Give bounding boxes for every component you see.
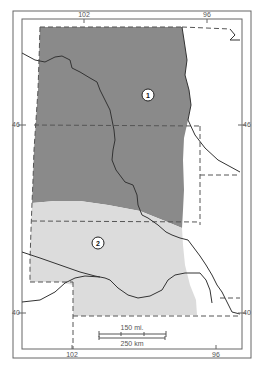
lat-label-right-46: 46 (243, 121, 251, 128)
region-2-marker: 2 (92, 237, 104, 249)
region-2-label: 2 (96, 240, 100, 247)
lon-label-bottom-102: 102 (66, 351, 78, 358)
lat-label-left-40: 40 (12, 309, 20, 316)
lon-label-top-102: 102 (78, 11, 90, 18)
river-eastern (182, 27, 240, 172)
lat-label-left-46: 46 (12, 121, 20, 128)
scale-bar (99, 331, 166, 340)
river-ne-corner (230, 29, 240, 40)
map-figure: 102 96 102 96 46 46 40 40 1 2 150 mi. 25 (0, 0, 259, 371)
scale-miles-label: 150 mi. (121, 324, 144, 331)
scale-km-label: 250 km (121, 340, 144, 347)
lon-label-bottom-96: 96 (212, 351, 220, 358)
lon-label-top-96: 96 (203, 11, 211, 18)
lat-label-right-40: 40 (243, 309, 251, 316)
region-1-label: 1 (146, 92, 150, 99)
region-1-marker: 1 (142, 89, 154, 101)
map-canvas: 102 96 102 96 46 46 40 40 1 2 150 mi. 25 (0, 0, 259, 371)
